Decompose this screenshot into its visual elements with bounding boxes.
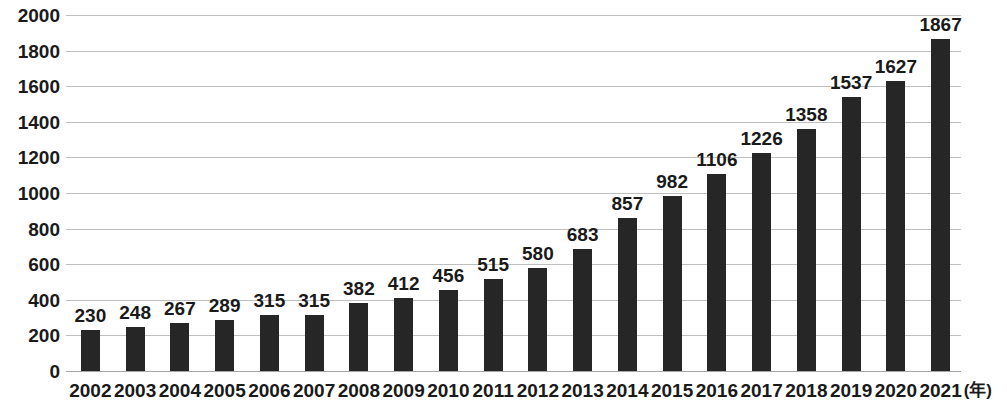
bar bbox=[618, 218, 637, 371]
bar bbox=[528, 268, 547, 371]
bar-value-label: 1106 bbox=[682, 150, 752, 169]
bar bbox=[215, 320, 234, 371]
bar bbox=[886, 81, 905, 371]
bar bbox=[573, 249, 592, 371]
bar-value-label: 1867 bbox=[906, 15, 976, 34]
bar bbox=[394, 298, 413, 371]
bar bbox=[484, 279, 503, 371]
bar bbox=[797, 129, 816, 371]
bar bbox=[842, 97, 861, 371]
bar bbox=[81, 330, 100, 371]
bar-value-label: 857 bbox=[592, 194, 662, 213]
x-axis-unit-label: (年) bbox=[964, 378, 992, 404]
bar bbox=[305, 315, 324, 371]
bar-value-label: 580 bbox=[503, 244, 573, 263]
bar-value-label: 982 bbox=[637, 172, 707, 191]
bar bbox=[439, 290, 458, 371]
bar bbox=[663, 196, 682, 371]
x-axis: 2002200320042005200620072008200920102011… bbox=[0, 378, 1007, 409]
bar-value-label: 1358 bbox=[771, 105, 841, 124]
bar bbox=[707, 174, 726, 371]
bar-value-label: 683 bbox=[548, 225, 618, 244]
bar bbox=[349, 303, 368, 371]
bar-chart: 0200400600800100012001400160018002000 23… bbox=[0, 0, 1007, 409]
bar bbox=[752, 153, 771, 371]
bar bbox=[260, 315, 279, 371]
bar bbox=[126, 327, 145, 371]
bar bbox=[931, 39, 950, 371]
bar-value-label: 1627 bbox=[861, 57, 931, 76]
bar bbox=[170, 323, 189, 371]
bar-value-label: 1226 bbox=[727, 129, 797, 148]
bars-group: 2302482672893153153824124565155806838579… bbox=[0, 0, 1007, 409]
